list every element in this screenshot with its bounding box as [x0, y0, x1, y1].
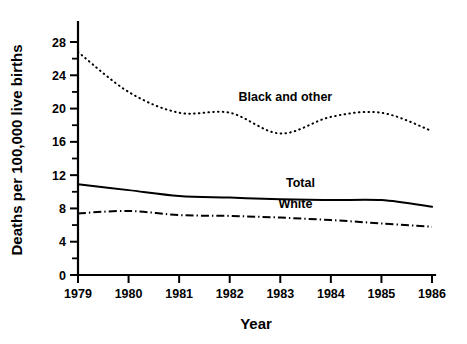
series-line-white [78, 211, 432, 227]
series-label-black-and-other: Black and other [238, 90, 332, 104]
x-tick-label: 1985 [368, 287, 396, 301]
series-label-total: Total [286, 176, 315, 190]
x-axis-ticks [78, 275, 432, 283]
y-axis-tick-labels: 0481216202428 [52, 36, 66, 283]
y-tick-label: 24 [52, 69, 66, 83]
line-chart: 0481216202428 19791980198119821983198419… [0, 0, 467, 344]
y-tick-label: 28 [52, 36, 66, 50]
x-tick-label: 1984 [317, 287, 345, 301]
chart-page: 0481216202428 19791980198119821983198419… [0, 0, 467, 344]
x-axis-tick-labels: 19791980198119821983198419851986 [64, 287, 446, 301]
y-tick-label: 16 [52, 135, 66, 149]
y-tick-label: 20 [52, 102, 66, 116]
x-tick-label: 1979 [64, 287, 92, 301]
series-annotations: Black and otherTotalWhite [238, 90, 332, 211]
y-tick-label: 0 [59, 269, 66, 283]
series-line-total [78, 184, 432, 206]
y-axis-title: Deaths per 100,000 live births [8, 45, 25, 256]
x-tick-label: 1980 [115, 287, 143, 301]
x-axis-title: Year [240, 315, 272, 332]
series-paths [78, 52, 432, 227]
y-tick-label: 4 [59, 235, 66, 249]
x-tick-label: 1986 [418, 287, 446, 301]
y-tick-label: 12 [52, 169, 66, 183]
y-tick-label: 8 [59, 202, 66, 216]
x-tick-label: 1983 [266, 287, 294, 301]
x-tick-label: 1981 [165, 287, 193, 301]
series-label-white: White [278, 197, 312, 211]
x-tick-label: 1982 [216, 287, 244, 301]
